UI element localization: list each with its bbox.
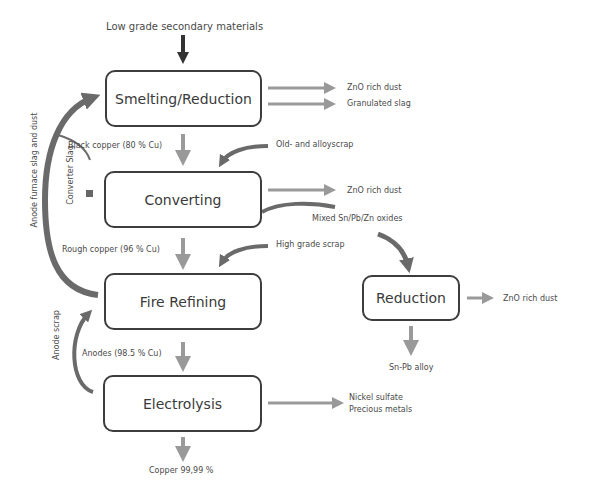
electrolysis-output-nickel: Nickel sulfate <box>349 393 403 403</box>
converting-output-zno: ZnO rich dust <box>347 186 401 196</box>
black-copper-label: Black copper (80 % Cu) <box>68 141 162 151</box>
converter-slag-label: Converter Slag <box>66 145 76 205</box>
electrolysis-box: Electrolysis <box>103 375 262 432</box>
converting-box: Converting <box>104 171 262 228</box>
reduction-output-alloy: Sn-Pb alloy <box>389 363 433 373</box>
reduction-box: Reduction <box>362 275 460 321</box>
electrolysis-output-precious: Precious metals <box>349 405 412 415</box>
reduction-label: Reduction <box>376 290 446 306</box>
smelting-output-zno: ZnO rich dust <box>347 83 401 93</box>
converter-slag-marker <box>86 190 93 197</box>
mixed-oxides-arrow-a <box>262 204 335 212</box>
anodes-label: Anodes (98.5 % Cu) <box>82 349 162 359</box>
fire-refining-box: Fire Refining <box>104 273 262 330</box>
old-scrap-arrow <box>222 146 268 162</box>
high-grade-scrap-arrow <box>222 246 268 262</box>
smelting-output-slag: Granulated slag <box>347 99 411 109</box>
input-label: Low grade secondary materials <box>106 22 263 32</box>
rough-copper-label: Rough copper (96 % Cu) <box>62 245 160 255</box>
anode-scrap-label: Anode scrap <box>52 310 62 360</box>
final-copper-label: Copper 99,99 % <box>149 466 213 476</box>
mixed-oxides-arrow-b <box>378 234 408 266</box>
smelting-reduction-label: Smelting/Reduction <box>115 91 252 107</box>
converting-label: Converting <box>144 192 221 208</box>
process-flow-diagram: Low grade secondary materials Smelting/R… <box>0 0 592 496</box>
reduction-output-zno: ZnO rich dust <box>503 294 557 304</box>
old-alloy-scrap-label: Old- and alloyscrap <box>276 140 353 150</box>
smelting-reduction-box: Smelting/Reduction <box>105 70 262 127</box>
electrolysis-label: Electrolysis <box>143 396 222 412</box>
fire-refining-label: Fire Refining <box>140 294 227 310</box>
converting-output-oxides: Mixed Sn/Pb/Zn oxides <box>312 214 402 224</box>
anode-furnace-slag-label: Anode furnace slag and dust <box>30 105 40 235</box>
high-grade-scrap-label: High grade scrap <box>276 240 345 250</box>
